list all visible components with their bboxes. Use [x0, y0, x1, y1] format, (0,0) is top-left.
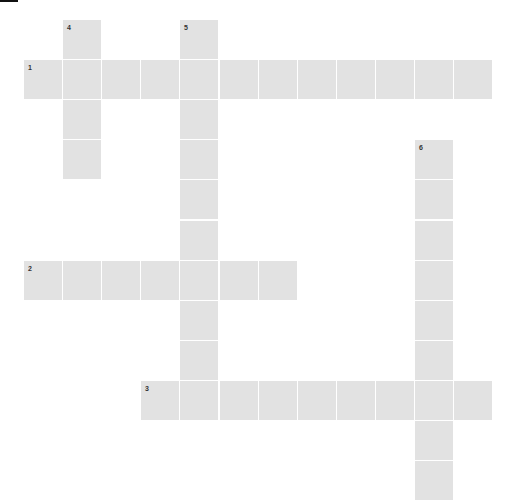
- crossword-cell[interactable]: [220, 60, 258, 99]
- crossword-cell[interactable]: [259, 261, 297, 300]
- crossword-cell[interactable]: [415, 301, 453, 340]
- crossword-cell[interactable]: [63, 140, 101, 179]
- crossword-cell[interactable]: [376, 60, 414, 99]
- crossword-cell[interactable]: [102, 261, 140, 300]
- crossword-cell[interactable]: [376, 381, 414, 420]
- crossword-cell[interactable]: [220, 381, 258, 420]
- crossword-cell[interactable]: [180, 100, 218, 139]
- crossword-cell[interactable]: [141, 60, 179, 99]
- clue-number: 6: [419, 144, 423, 151]
- crossword-cell[interactable]: [415, 221, 453, 260]
- crossword-cell[interactable]: [298, 381, 336, 420]
- crossword-cell[interactable]: [180, 341, 218, 380]
- crossword-cell[interactable]: [102, 60, 140, 99]
- clue-number: 2: [28, 265, 32, 272]
- crossword-cell[interactable]: [259, 60, 297, 99]
- crossword-cell[interactable]: 4: [63, 20, 101, 59]
- crossword-cell[interactable]: [180, 301, 218, 340]
- crossword-cell[interactable]: [180, 140, 218, 179]
- crossword-cell[interactable]: [415, 261, 453, 300]
- crossword-cell[interactable]: [180, 261, 218, 300]
- crossword-cell[interactable]: [415, 341, 453, 380]
- crossword-cell[interactable]: [337, 381, 375, 420]
- crossword-cell[interactable]: 6: [415, 140, 453, 179]
- crossword-cell[interactable]: [63, 261, 101, 300]
- crossword-cell[interactable]: [454, 381, 492, 420]
- crossword-cell[interactable]: [415, 461, 453, 500]
- crossword-cell[interactable]: [180, 221, 218, 260]
- crossword-cell[interactable]: 3: [141, 381, 179, 420]
- crossword-cell[interactable]: [337, 60, 375, 99]
- crossword-cell[interactable]: [63, 60, 101, 99]
- crossword-cell[interactable]: [415, 421, 453, 460]
- clue-number: 3: [145, 385, 149, 392]
- crossword-cell[interactable]: [259, 381, 297, 420]
- crossword-cell[interactable]: [415, 180, 453, 219]
- crossword-cell[interactable]: [220, 261, 258, 300]
- crossword-cell[interactable]: [180, 180, 218, 219]
- crossword-cell[interactable]: [415, 60, 453, 99]
- crossword-cell[interactable]: [141, 261, 179, 300]
- crossword-cell[interactable]: [180, 381, 218, 420]
- crossword-cell[interactable]: [63, 100, 101, 139]
- crossword-cell[interactable]: 1: [24, 60, 62, 99]
- crossword-cell[interactable]: [415, 381, 453, 420]
- clue-number: 1: [28, 64, 32, 71]
- clue-number: 4: [67, 24, 71, 31]
- clue-number: 5: [184, 24, 188, 31]
- crossword-cell[interactable]: [298, 60, 336, 99]
- crossword-cell[interactable]: 5: [180, 20, 218, 59]
- crossword-cell[interactable]: 2: [24, 261, 62, 300]
- crossword-cell[interactable]: [454, 60, 492, 99]
- crossword-cell[interactable]: [180, 60, 218, 99]
